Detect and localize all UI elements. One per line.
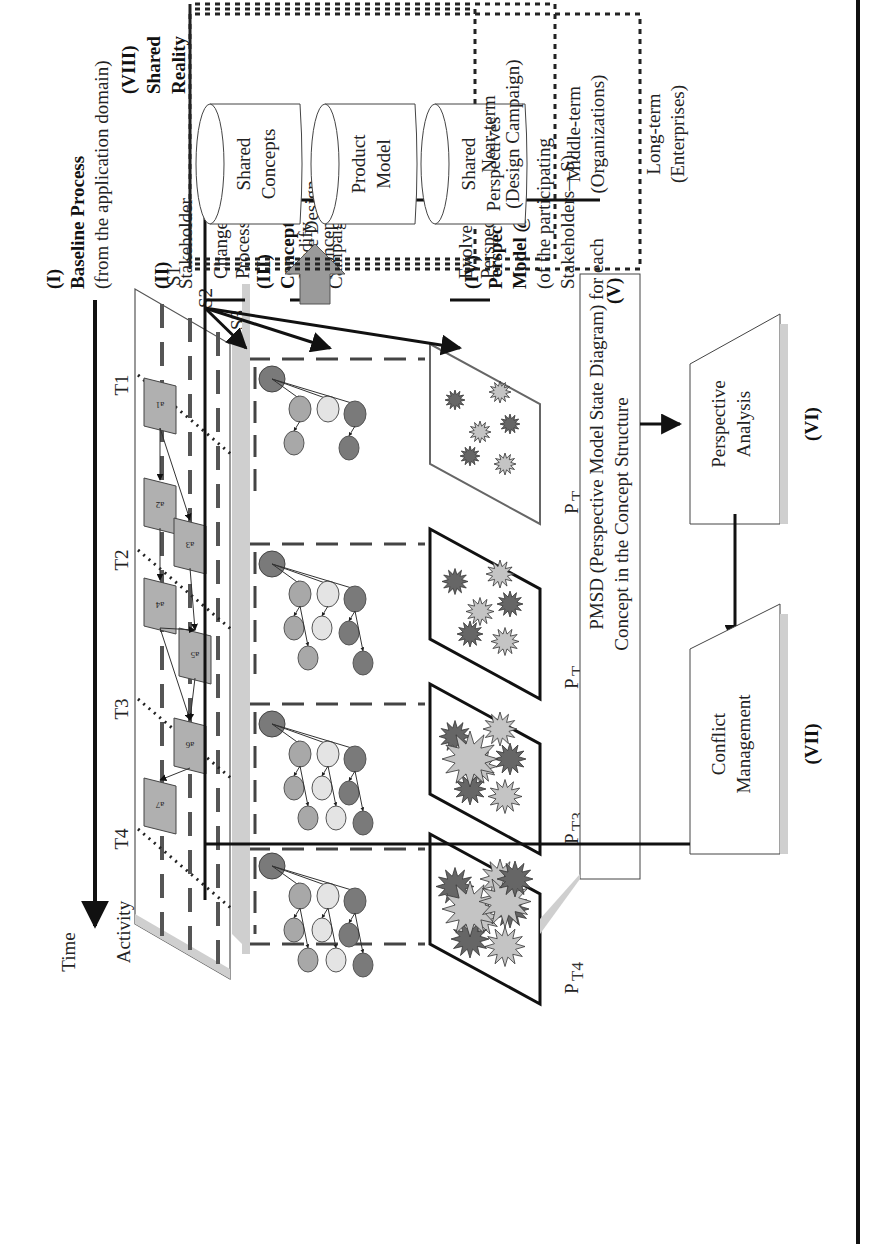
term-label-1: Long-term xyxy=(643,93,664,174)
analysis-roman: (VI) xyxy=(801,407,823,441)
data-store-line-1: Shared xyxy=(458,137,479,190)
pmsd-line-2: Concept in the Concept Structure xyxy=(611,397,632,650)
analysis-line-1: Perspective xyxy=(708,380,729,468)
concept-node-p xyxy=(317,741,339,767)
data-store-line-2: Concepts xyxy=(258,129,279,200)
concept-plane-shadow xyxy=(242,284,250,954)
conflict-shadow xyxy=(780,614,788,854)
analysis-shadow xyxy=(780,324,788,524)
data-store-line-1: Product xyxy=(348,134,369,194)
concept-edge xyxy=(322,766,328,776)
activity-label: Activity xyxy=(113,900,134,963)
concept-node-c1 xyxy=(339,781,359,805)
concept-node-t xyxy=(289,741,311,767)
data-store-top xyxy=(196,104,224,224)
concept-node-p1 xyxy=(312,776,332,800)
data-store-top xyxy=(421,104,449,224)
term-label-1: Near-term xyxy=(478,95,499,173)
concept-node-p1 xyxy=(312,616,332,640)
term-label-2: (Design Campaign) xyxy=(502,59,524,208)
analysis-line-2: Analysis xyxy=(733,391,754,458)
concept-node-t1 xyxy=(284,776,304,800)
concept-node-c xyxy=(344,888,366,914)
activity-label: a5 xyxy=(190,650,199,660)
concept-node-p1 xyxy=(312,918,332,942)
concept-node-t2 xyxy=(298,646,318,670)
shared-reality-title-1: Shared xyxy=(143,36,164,94)
concept-node-t2 xyxy=(298,948,318,972)
activity-label: a3 xyxy=(185,540,194,550)
conflict-roman: (VII) xyxy=(801,723,823,764)
term-label-1: Middle-term xyxy=(563,86,584,182)
concept-node-t1 xyxy=(284,431,304,455)
activity-label: a7 xyxy=(155,800,164,810)
concept-edge xyxy=(349,611,355,621)
concept-node-c2 xyxy=(353,651,373,675)
concept-node-p xyxy=(317,396,339,422)
concept-node-c1 xyxy=(339,621,359,645)
conflict-line-2: Management xyxy=(733,694,754,794)
concept-node-p xyxy=(317,883,339,909)
concept-node-c2 xyxy=(353,953,373,977)
time-point-2: T2 xyxy=(111,549,132,570)
concept-edge xyxy=(322,606,328,616)
stakeholder-label-1: S1 xyxy=(163,266,184,286)
perspective-plane: PT1 xyxy=(430,344,602,524)
pmsd-box: (V)PMSD (Perspective Model State Diagram… xyxy=(540,238,680,934)
perspective-models: PT1PT2PT3PT4 xyxy=(430,344,602,1004)
concept-edge xyxy=(349,771,355,781)
term-label-2: (Enterprises) xyxy=(667,85,689,183)
concept-node-c1 xyxy=(339,923,359,947)
evolve-perspectives-label-1: Evolve xyxy=(455,225,476,279)
concept-edge xyxy=(272,866,355,891)
time-point-4: T4 xyxy=(111,828,132,850)
concept-node-t1 xyxy=(284,918,304,942)
concept-node-p11 xyxy=(326,806,346,830)
time-point-3: T3 xyxy=(111,698,132,719)
data-store-line-1: Shared xyxy=(233,137,254,190)
concept-node-t xyxy=(289,581,311,607)
data-store-line-2: Model xyxy=(373,139,394,189)
baseline-plane: ActivityS1S2S3T1T2T3T4a1a2a3a4a5a6a7 xyxy=(111,266,248,979)
activity-box: a7 xyxy=(144,778,176,834)
concept-node-c xyxy=(344,746,366,772)
concept-edge xyxy=(272,379,355,404)
pmsd-line-1: PMSD (Perspective Model State Diagram) f… xyxy=(586,238,608,630)
framework-diagram: (I) Baseline Process (from the applicati… xyxy=(0,0,873,1244)
activity-box: a2 xyxy=(144,478,176,534)
concept-node-t1 xyxy=(284,616,304,640)
perspective-model-label: P xyxy=(561,503,582,514)
activity-box: a1 xyxy=(144,378,176,434)
dynamic-layer: ActivityS1S2S3T1T2T3T4a1a2a3a4a5a6a7PT1P… xyxy=(111,4,823,1004)
concept-node-t2 xyxy=(298,806,318,830)
conflict-line-1: Conflict xyxy=(708,712,729,775)
data-store: SharedConcepts xyxy=(196,104,302,224)
baseline-plane-shadow xyxy=(232,344,242,944)
activity-box: a6 xyxy=(174,718,206,774)
activity-label: a2 xyxy=(156,500,165,510)
time-axis: Time xyxy=(58,300,95,972)
concept-node-c xyxy=(344,586,366,612)
term-label-2: (Organizations) xyxy=(587,75,609,194)
concept-edge xyxy=(272,724,355,749)
activity-label: a6 xyxy=(185,740,194,750)
concept-edge xyxy=(294,766,300,776)
concept-edge xyxy=(349,913,355,923)
baseline-subtitle: (from the application domain) xyxy=(91,61,113,289)
baseline-title: Baseline Process xyxy=(67,156,88,289)
concept-node-p xyxy=(317,581,339,607)
concept-node-t xyxy=(289,883,311,909)
perspective-plane: PT2 xyxy=(430,529,602,699)
perspective-analysis: PerspectiveAnalysis(VI) xyxy=(690,314,823,644)
perspective-model-label: P xyxy=(561,678,582,689)
baseline-roman: (I) xyxy=(43,269,65,289)
perspective-plane: PT3 xyxy=(430,684,587,854)
activity-label: a1 xyxy=(156,400,165,410)
concept-node-t xyxy=(289,396,311,422)
concept-edge xyxy=(272,564,355,589)
pmsd-edge xyxy=(540,874,580,934)
diagram-stage: (I) Baseline Process (from the applicati… xyxy=(0,0,873,1244)
activity-label: a4 xyxy=(155,600,164,610)
concept-edge xyxy=(349,426,355,436)
shared-reality-roman: (VIII) xyxy=(118,45,140,94)
